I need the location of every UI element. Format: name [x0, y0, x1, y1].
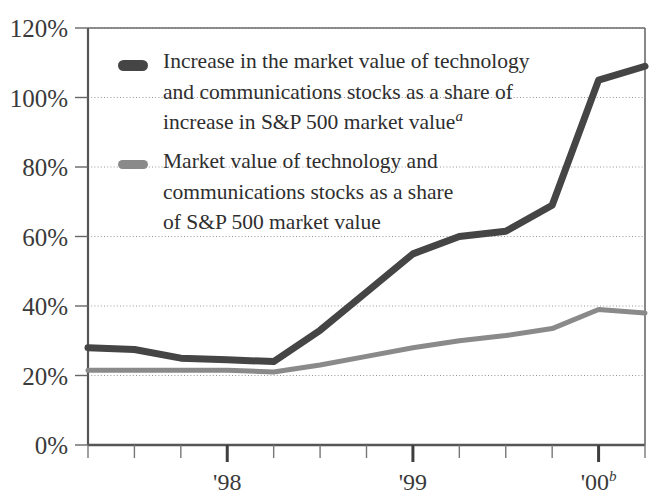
y-tick-label: 20%	[22, 363, 68, 390]
legend-label-line: increase in S&P 500 market valuea	[163, 108, 463, 134]
line-chart: 0%20%40%60%80%100%120% '98'99'00b Increa…	[0, 0, 665, 502]
legend-label-line: and communications stocks as a share of	[163, 80, 514, 104]
y-tick-label: 40%	[22, 293, 68, 320]
legend-label-line: of S&P 500 market value	[163, 210, 381, 234]
y-tick-label: 60%	[22, 224, 68, 251]
y-tick-label: 80%	[22, 154, 68, 181]
legend-label-line: Market value of technology and	[163, 149, 438, 173]
chart-legend: Increase in the market value of technolo…	[118, 49, 530, 234]
legend-label-line: communications stocks as a share	[163, 180, 453, 204]
y-tick-label: 0%	[35, 432, 68, 459]
y-tick-label: 100%	[10, 85, 68, 112]
x-tick-marks	[88, 445, 645, 462]
legend-swatch-dark	[118, 60, 148, 71]
legend-swatch-gray	[118, 160, 148, 169]
legend-label-line: Increase in the market value of technolo…	[163, 49, 530, 73]
x-tick-superscript: b	[609, 468, 617, 484]
y-axis-tick-labels: 0%20%40%60%80%100%120%	[10, 15, 68, 459]
x-axis-tick-labels: '98'99'00b	[213, 468, 617, 495]
y-tick-marks	[75, 28, 88, 445]
x-tick-label: '98	[213, 469, 241, 495]
chart-container: 0%20%40%60%80%100%120% '98'99'00b Increa…	[0, 0, 665, 502]
x-tick-label: '99	[399, 469, 427, 495]
y-tick-label: 120%	[10, 15, 68, 42]
series-line	[88, 309, 645, 372]
x-tick-label: '00b	[581, 468, 617, 495]
legend-superscript: a	[455, 108, 463, 124]
